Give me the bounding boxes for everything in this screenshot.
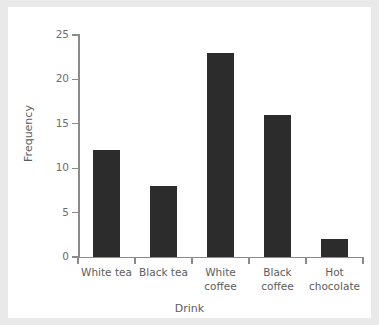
- x-axis-category-label-line: White tea: [78, 266, 135, 280]
- x-axis-category-label: Blackcoffee: [249, 266, 306, 293]
- y-axis-tick-label: 0: [48, 250, 69, 262]
- bar[interactable]: [321, 239, 348, 257]
- x-axis-category-label-line: coffee: [192, 280, 249, 294]
- x-axis-category-label-line: coffee: [249, 280, 306, 294]
- x-axis-tick-mark: [77, 258, 78, 264]
- bars-layer: [78, 35, 363, 257]
- y-axis-tick-label: 15: [48, 117, 69, 129]
- x-axis-category-label: Black tea: [135, 266, 192, 280]
- bar[interactable]: [207, 53, 234, 257]
- x-axis-category-label-line: chocolate: [306, 280, 363, 294]
- x-axis-category-label-line: White: [192, 266, 249, 280]
- x-axis-category-label: Whitecoffee: [192, 266, 249, 293]
- y-axis-tick-label: 25: [48, 28, 69, 40]
- x-axis-tick-mark: [305, 258, 306, 264]
- x-axis-category-label: White tea: [78, 266, 135, 280]
- x-axis-category-label-line: Hot: [306, 266, 363, 280]
- x-axis-category-label-line: Black: [249, 266, 306, 280]
- y-axis-tick-label: 5: [48, 206, 69, 218]
- figure-card: 0510152025 White teaBlack teaWhitecoffee…: [8, 7, 371, 318]
- x-axis-category-label-line: Black tea: [135, 266, 192, 280]
- x-axis-tick-mark: [362, 258, 363, 264]
- x-axis-tick-mark: [248, 258, 249, 264]
- x-axis-tick-mark: [191, 258, 192, 264]
- bar[interactable]: [93, 150, 120, 257]
- x-axis-category-label: Hotchocolate: [306, 266, 363, 293]
- bar[interactable]: [150, 186, 177, 257]
- x-axis-title: Drink: [8, 302, 371, 315]
- y-axis-title: Frequency: [22, 89, 35, 179]
- y-axis-tick-label: 10: [48, 161, 69, 173]
- y-axis-tick-label: 20: [48, 72, 69, 84]
- bar[interactable]: [264, 115, 291, 257]
- x-axis-tick-mark: [134, 258, 135, 264]
